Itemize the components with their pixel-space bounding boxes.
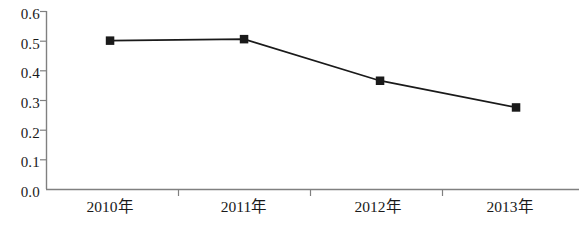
x-tick-label-0: 2010年 [64, 199, 156, 215]
x-tick-label-2: 2012年 [332, 199, 424, 215]
x-tick-label-3: 2013年 [464, 199, 556, 215]
x-axis-tick-labels: 2010年 2011年 2012年 2013年 [0, 0, 580, 227]
x-tick-label-1: 2011年 [198, 199, 290, 215]
line-chart: 0.6 0.5 0.4 0.3 0.2 0.1 0.0 2010年 2011年 … [0, 0, 580, 227]
